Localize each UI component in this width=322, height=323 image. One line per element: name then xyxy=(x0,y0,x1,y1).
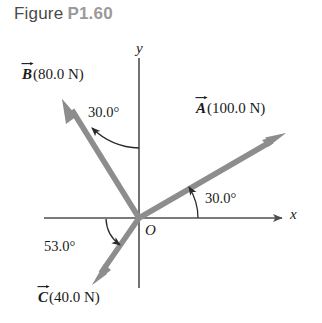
y-axis-label: y xyxy=(136,40,143,57)
vector-C xyxy=(92,218,139,285)
angle-arc-b xyxy=(92,128,139,148)
vector-magnitude-c: (40.0 N) xyxy=(49,289,100,305)
angle-label-a: 30.0° xyxy=(205,190,236,207)
origin-label: O xyxy=(145,222,156,239)
angle-arc-a xyxy=(189,187,198,218)
vector-magnitude-a: (100.0 N) xyxy=(207,100,265,116)
vector-label-a: A(100.0 N) xyxy=(196,100,265,117)
vector-symbol-b: B xyxy=(22,66,33,82)
figure-container: FigureP1.60 xyxy=(0,0,322,323)
vector-diagram xyxy=(0,0,322,323)
angle-arc-c xyxy=(106,219,120,245)
angle-label-c: 53.0° xyxy=(44,238,75,255)
vector-symbol-c: C xyxy=(38,289,49,305)
vector-label-c: C(40.0 N) xyxy=(38,289,100,306)
vector-symbol-a: A xyxy=(196,100,207,116)
vector-magnitude-b: (80.0 N) xyxy=(33,66,84,82)
angle-label-b: 30.0° xyxy=(88,104,119,121)
vector-label-b: B(80.0 N) xyxy=(22,66,84,83)
x-axis-label: x xyxy=(290,206,297,223)
